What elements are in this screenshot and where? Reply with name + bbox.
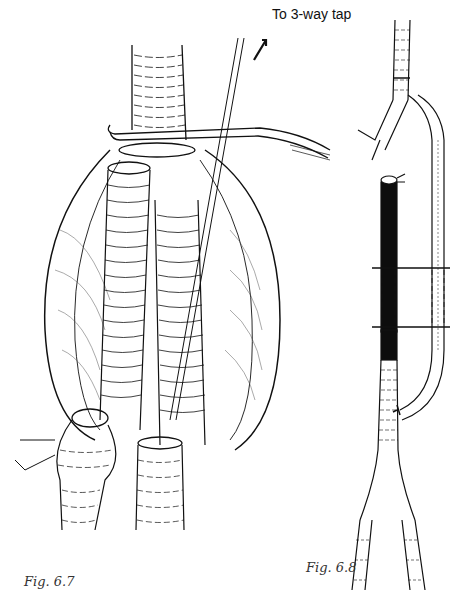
three-way-tap-label: To 3-way tap <box>272 6 351 22</box>
fig-6-7-drawing <box>15 38 330 530</box>
arrow-icon <box>254 40 266 60</box>
figure-caption-6-8: Fig. 6.8 <box>306 560 356 575</box>
fig-6-8-drawing <box>352 20 450 590</box>
figure-caption-6-7: Fig. 6.7 <box>24 574 74 589</box>
illustration-canvas <box>0 0 476 611</box>
